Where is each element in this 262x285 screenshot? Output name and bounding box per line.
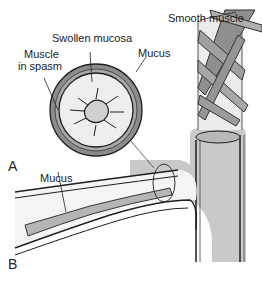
label-smooth-muscle: Smooth muscle [168,12,244,24]
label-mucus-bottom: Mucus [40,172,72,184]
label-muscle-in-spasm-line1: Muscle [24,48,59,60]
bronchiole-illustration: Smooth muscle Swollen mucosa Mucus Muscl… [0,0,262,285]
label-muscle-in-spasm-line2: in spasm [18,60,62,72]
panel-letter-a: A [8,158,17,174]
label-mucus-top: Mucus [138,47,170,59]
horizontal-airway [15,140,197,255]
label-swollen-mucosa: Swollen mucosa [52,32,132,44]
panel-letter-b: B [8,256,17,272]
